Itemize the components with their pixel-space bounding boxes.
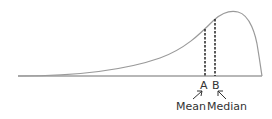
median-label: Median <box>207 101 247 113</box>
mean-arrow <box>193 91 202 99</box>
mean-label: Mean <box>176 101 206 113</box>
distribution-curve <box>18 11 262 76</box>
point-a-label: A <box>200 80 208 92</box>
point-b-label: B <box>212 80 220 92</box>
median-arrow <box>218 91 226 99</box>
